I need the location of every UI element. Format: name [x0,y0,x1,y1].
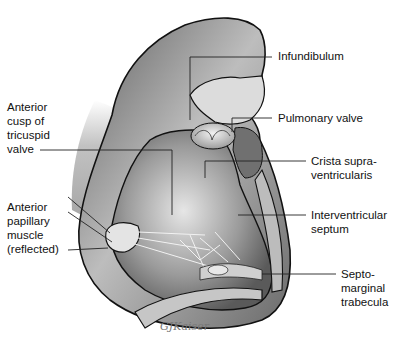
label-anterior-cusp: Anterior cusp of tricuspid valve [7,100,50,156]
label-anterior-papillary-muscle: Anterior papillary muscle (reflected) [7,200,59,256]
label-infundibulum: Infundibulum [278,49,344,63]
label-interventricular-septum: Interventricular septum [311,208,387,236]
label-crista-supraventricularis: Crista supra- ventricularis [311,154,377,182]
label-septomarginal-trabecula: Septo- marginal trabecula [341,267,388,309]
artist-signature: GJKaiser [160,320,209,333]
anatomy-figure: Anterior cusp of tricuspid valve Anterio… [0,0,395,347]
pulmonary-valve-shape [191,123,235,149]
label-pulmonary-valve: Pulmonary valve [278,111,363,125]
